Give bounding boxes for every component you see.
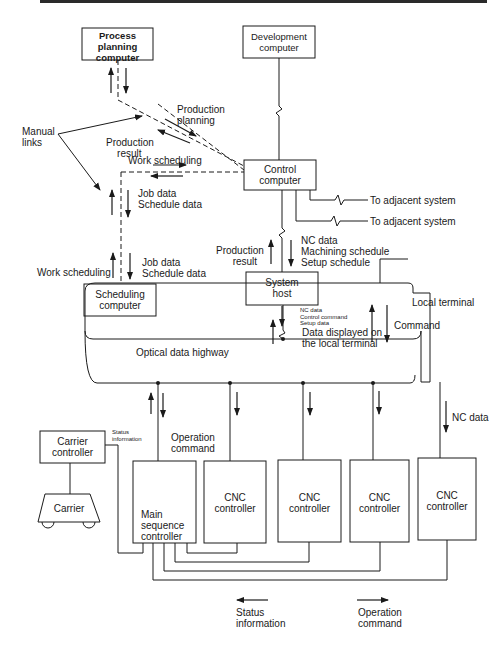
job-data-label-1: Job data Schedule data (138, 188, 202, 210)
carrier-controller: Carrier controller (40, 436, 105, 458)
job-data-label-2: Job data Schedule data (142, 257, 206, 279)
main-sequence-controller: Main sequence controller (141, 509, 196, 542)
manual-links-label: Manual links (22, 126, 55, 148)
cnc-controller-3: CNC controller (350, 492, 409, 514)
production-result-host-label: Production result (216, 245, 264, 267)
work-scheduling-bottom-label: Work scheduling (37, 267, 111, 278)
cnc-controller-2: CNC controller (278, 492, 341, 514)
control-computer: Control computer (244, 164, 316, 186)
legend-operation-command: Operation command (358, 607, 402, 629)
work-scheduling-top-label: Work scheduling (128, 155, 202, 166)
command-label: Command (394, 320, 440, 331)
cnc-controller-4: CNC controller (418, 490, 476, 512)
local-terminal-label: Local terminal (412, 297, 474, 308)
to-adjacent-system-1: To adjacent system (370, 195, 456, 206)
optical-data-highway-label: Optical data highway (136, 347, 229, 358)
carrier: Carrier (38, 503, 100, 514)
process-planning-computer: Process planning computer (82, 30, 153, 63)
data-displayed-label: Data displayed on the local terminal (302, 327, 382, 349)
production-planning-label: Production planning (177, 104, 225, 126)
operation-command-label: Operation command (171, 432, 215, 454)
cnc-controller-1: CNC controller (204, 492, 266, 514)
system-host: System host (246, 277, 318, 299)
nc-data-right-label: NC data (452, 412, 489, 423)
to-adjacent-system-2: To adjacent system (370, 216, 456, 227)
nc-machining-setup-label: NC data Machining schedule Setup schedul… (301, 235, 389, 268)
legend-status-information: Status information (236, 607, 285, 629)
host-output-small-label: NC data Control command Setup data (300, 307, 347, 327)
scheduling-computer: Scheduling computer (84, 289, 156, 311)
status-information-small-label: Status information (112, 429, 142, 442)
development-computer: Development computer (243, 31, 315, 53)
